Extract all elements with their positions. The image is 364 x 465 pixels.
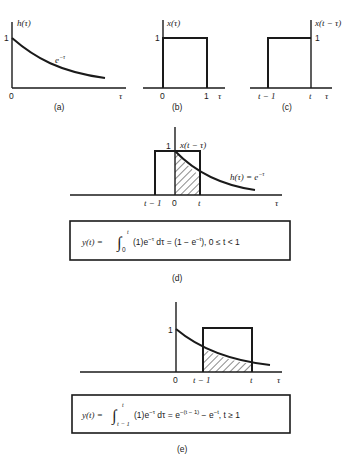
y-tick-1: 1 [315,33,320,43]
x-origin-label: 0 [9,91,14,101]
x-tick-left: t − 1 [144,198,162,208]
caption-d: (d) [172,273,183,283]
x-tick-left: t − 1 [258,91,276,101]
x-axis-label: τ [275,198,279,208]
panel-b: x(τ) 1 0 1 τ (b) [143,18,225,112]
caption-e: (e) [177,444,188,454]
panel-a: h(τ) 1 e−τ 0 τ (a) [4,18,126,112]
x-axis-label: τ [325,91,329,101]
x-axis-label: τ [119,91,123,101]
curve-label: h(τ) = e−τ [230,171,265,182]
y-tick-1: 1 [168,325,173,335]
rect-label: x(t − τ) [179,140,206,150]
y-axis-label: h(τ) [17,18,31,28]
equation-e: y(t) = ∫ t t − 1 (1)e−τ dτ = e−(t − 1) −… [81,402,240,427]
curve-label: e−τ [55,54,66,65]
x-tick-left: t − 1 [193,375,211,385]
caption-a: (a) [54,102,65,112]
x-origin-label: 0 [160,91,165,101]
panel-d: 1 x(t − τ) h(τ) = e−τ t − 1 0 t τ y(t) =… [70,127,290,283]
x-origin-label: 0 [172,198,177,208]
x-axis-label: τ [277,375,281,385]
eq-lhs: y(t) = [81,237,103,247]
equation-d: y(t) = ∫ t 0 (1)e−τ dτ = (1 − e−t), 0 ≤ … [81,229,240,253]
integral-lower: 0 [122,246,126,253]
caption-b: (b) [172,102,183,112]
integral-lower: t − 1 [117,420,130,427]
x-tick-1: 1 [204,91,209,101]
y-tick-1: 1 [4,33,9,43]
integral-upper: t [122,402,124,408]
x-tick-right: t [309,91,312,101]
eq-rhs: (1)e−τ dτ = (1 − e−t), 0 ≤ t < 1 [133,236,240,247]
x-tick-right: t [198,198,201,208]
eq-rhs: (1)e−τ dτ = e−(t − 1) − e−t, t ≥ 1 [134,409,240,420]
caption-c: (c) [282,102,292,112]
y-tick-1: 1 [155,33,160,43]
rect-pulse [163,38,207,88]
x-origin-label: 0 [173,375,178,385]
hatched-overlap-area [175,151,200,195]
x-tick-right: t [250,375,253,385]
y-axis-label: x(t − τ) [314,18,341,28]
integral-upper: t [127,229,129,235]
x-axis-label: τ [218,91,222,101]
eq-lhs: y(t) = [81,410,103,420]
y-tick-1: 1 [166,141,171,151]
panel-e: 1 0 t − 1 t τ y(t) = ∫ t t − 1 (1)e−τ dτ… [72,302,290,454]
y-axis-label: x(τ) [166,18,180,28]
rect-pulse [268,38,311,88]
convolution-figure: h(τ) 1 e−τ 0 τ (a) x(τ) 1 0 1 τ (b) x(t … [0,0,364,465]
panel-c: x(t − τ) 1 t − 1 t τ (c) [250,18,341,112]
